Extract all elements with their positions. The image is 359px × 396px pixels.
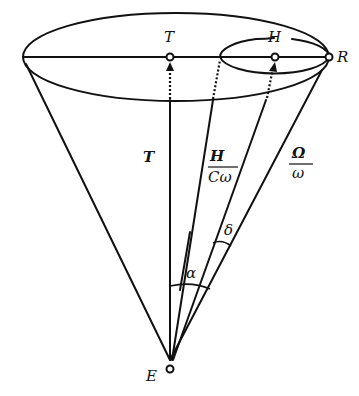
label-omega-denominator: ω	[292, 164, 304, 182]
label-t-point: T	[164, 28, 175, 46]
label-h-denominator: Cω	[208, 168, 232, 186]
label-t-vector: T	[143, 148, 156, 166]
point-t	[167, 54, 174, 61]
h-vector-dotted	[213, 60, 220, 99]
alpha-arc	[170, 284, 210, 289]
label-alpha: α	[186, 264, 196, 282]
label-h-numerator: H	[209, 147, 225, 165]
cone-diagram: T H R E T H Cω Ω ω α δ	[0, 0, 359, 396]
label-omega-numerator: Ω	[291, 144, 306, 162]
point-r	[326, 54, 333, 61]
t-arrowhead-icon	[166, 62, 174, 71]
label-r-point: R	[336, 48, 348, 66]
h-arrowhead-icon	[269, 62, 277, 72]
cone-right-edge	[170, 70, 322, 360]
label-delta: δ	[224, 221, 233, 239]
omega-vector-line	[173, 100, 266, 360]
label-e-point: E	[145, 367, 157, 385]
cone-left-edge	[26, 64, 170, 360]
h-vector-line	[172, 100, 213, 360]
label-h-point: H	[267, 28, 282, 46]
delta-arc	[213, 242, 231, 246]
point-e	[167, 366, 174, 373]
point-h	[272, 54, 279, 61]
